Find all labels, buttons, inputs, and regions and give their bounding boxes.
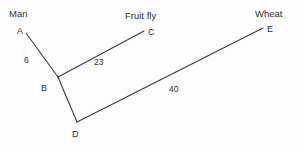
taxon-label-wheat: Wheat xyxy=(255,9,282,19)
taxon-label-fruit-fly: Fruit fly xyxy=(125,11,156,21)
branch-a-b xyxy=(26,33,58,77)
taxon-label-man: Man xyxy=(9,9,27,19)
branch-length-a-b: 6 xyxy=(24,56,29,65)
branch-b-d xyxy=(58,77,77,122)
tree-graphic xyxy=(0,0,305,152)
node-label-b: B xyxy=(41,84,47,93)
node-label-e: E xyxy=(267,25,273,34)
node-label-d: D xyxy=(72,130,79,139)
node-label-a: A xyxy=(17,27,23,36)
tree-branches xyxy=(26,28,263,122)
branch-length-d-e: 40 xyxy=(169,85,178,94)
node-label-c: C xyxy=(148,28,155,37)
branch-d-e xyxy=(77,28,263,122)
diagram-canvas: Man Fruit fly Wheat A B C D E 6 23 40 xyxy=(0,0,305,152)
branch-b-c xyxy=(58,31,144,77)
branch-length-b-c: 23 xyxy=(94,58,103,67)
